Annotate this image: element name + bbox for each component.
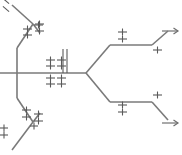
lower-right-arrow-icon — [162, 120, 178, 126]
upper-left-node-upper-arm — [12, 5, 33, 24]
right-lower-terminal-diagonal — [152, 102, 168, 120]
tick-group-top-left-edge — [3, 0, 9, 12]
upper-left-inner-diagonal — [17, 24, 33, 48]
tick-marks-group — [0, 0, 162, 139]
right-fork-upper-diagonal — [86, 45, 110, 73]
arrow-heads-group — [162, 28, 178, 126]
right-fork-lower-diagonal — [86, 73, 110, 102]
tree-canvas — [0, 0, 182, 155]
tick-group-center-upper-right — [57, 57, 66, 70]
tick-group-center-lower-right — [57, 75, 66, 88]
lower-left-node-lower-arm — [12, 122, 33, 150]
tick-group-right-lower-tip — [153, 92, 162, 99]
tick-group-top-left-edge-tick-0 — [3, 0, 9, 4]
right-upper-terminal-diagonal — [152, 31, 168, 45]
tick-group-top-left-edge-tick-1 — [3, 6, 9, 11]
branch-lines-group — [0, 5, 168, 150]
tick-group-right-upper-tip — [153, 47, 162, 54]
tick-group-right-upper-branch — [118, 29, 127, 43]
tick-group-right-lower-branch — [118, 102, 127, 116]
tick-group-lower-left-outer — [34, 111, 43, 125]
tick-group-center-vertical-bars — [63, 49, 67, 73]
tick-group-bottom-left-edge — [0, 125, 8, 139]
phylogenetic-tree-diagram — [0, 0, 182, 155]
tick-group-center-upper-left — [46, 57, 55, 70]
tick-group-center-lower-left — [46, 75, 55, 88]
